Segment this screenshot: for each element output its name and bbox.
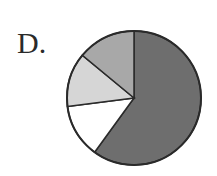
pie-chart <box>0 0 217 176</box>
